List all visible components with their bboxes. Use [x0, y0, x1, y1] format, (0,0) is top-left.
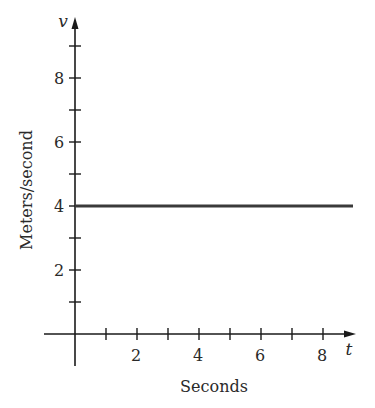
- axes: [44, 26, 348, 366]
- y-axis-arrow-icon: [72, 17, 79, 29]
- x-tick-label-6: 6: [255, 346, 265, 365]
- y-axis-title: Meters/second: [17, 130, 36, 250]
- y-tick-label-4: 4: [54, 197, 64, 216]
- velocity-time-chart: 2 4 6 8 2 4 6 8 v t Seconds Meters/secon…: [0, 0, 375, 408]
- x-axis-title: Seconds: [180, 377, 248, 396]
- y-tick-label-2: 2: [54, 261, 64, 280]
- y-axis-variable: v: [58, 11, 68, 31]
- x-axis-variable: t: [346, 339, 353, 359]
- x-tick-label-8: 8: [317, 346, 327, 365]
- y-tick-label-8: 8: [54, 69, 64, 88]
- x-axis-arrow-icon: [344, 331, 356, 338]
- x-tick-label-2: 2: [131, 346, 141, 365]
- y-tick-label-6: 6: [54, 133, 64, 152]
- x-tick-label-4: 4: [193, 346, 203, 365]
